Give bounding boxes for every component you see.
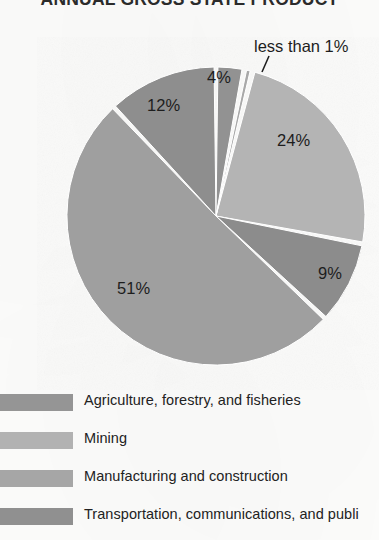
legend-label: Agriculture, forestry, and fisheries [84, 392, 301, 408]
legend-swatch [0, 394, 73, 411]
legend-label: Manufacturing and construction [84, 468, 288, 484]
legend-item[interactable]: Mining [0, 426, 379, 464]
pie-label-24: 24% [277, 131, 310, 150]
pie-label-51: 51% [117, 279, 150, 298]
legend-item[interactable]: Transportation, communications, and publ… [0, 502, 379, 540]
pie-slice-24[interactable] [216, 72, 365, 242]
pie-label-12: 12% [147, 96, 180, 115]
scanned-page: ANNUAL GROSS STATE PRODUCT 24% 9% 51% 12… [0, 0, 379, 540]
legend-item[interactable]: Manufacturing and construction [0, 464, 379, 502]
legend: Agriculture, forestry, and fisheriesMini… [0, 388, 379, 540]
pie-label-9: 9% [318, 264, 342, 283]
legend-item[interactable]: Agriculture, forestry, and fisheries [0, 388, 379, 426]
pie-chart-svg [0, 0, 379, 390]
legend-swatch [0, 508, 73, 525]
legend-label: Mining [84, 430, 127, 446]
pie-label-less-than-1: less than 1% [254, 37, 348, 56]
pie-chart: 24% 9% 51% 12% 4% less than 1% [0, 0, 379, 390]
pie-label-4: 4% [207, 68, 231, 87]
leader-line-icon [262, 56, 269, 72]
legend-swatch [0, 432, 73, 449]
legend-swatch [0, 470, 73, 487]
legend-label: Transportation, communications, and publ… [84, 506, 359, 522]
